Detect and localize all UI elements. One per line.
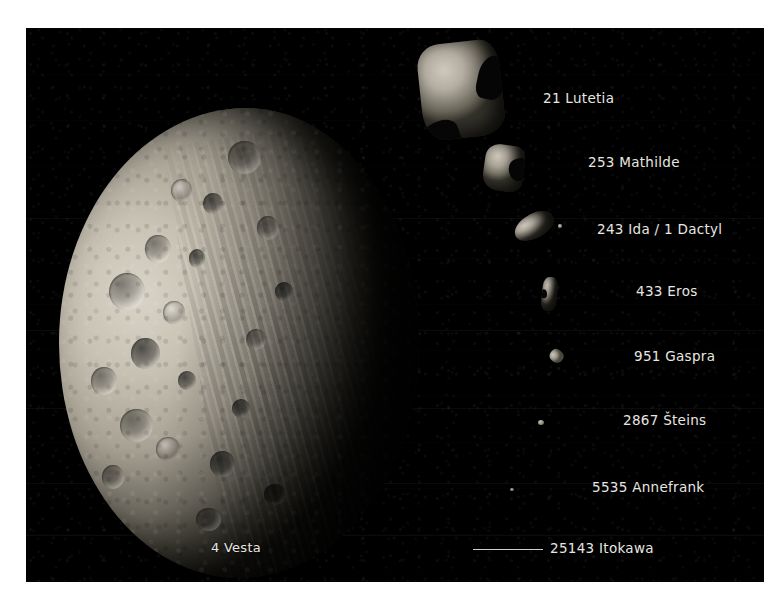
moon-dactyl	[558, 224, 562, 228]
label-mathilde: 253 Mathilde	[588, 154, 680, 170]
asteroid-ida	[513, 214, 555, 238]
asteroid-gaspra	[550, 349, 563, 363]
eros-shadow-waist	[540, 289, 547, 298]
asteroid-steins	[538, 420, 544, 425]
label-itokawa: 25143 Itokawa	[550, 540, 654, 556]
lutetia-shadow-notch	[418, 116, 463, 142]
figure-canvas: 4 Vesta 21 Lutetia 253 Mathilde 243 Ida …	[0, 0, 782, 605]
label-steins: 2867 Šteins	[623, 412, 706, 428]
label-gaspra: 951 Gaspra	[634, 348, 715, 364]
asteroid-lutetia	[420, 42, 502, 138]
asteroid-vesta	[59, 108, 419, 578]
asteroid-montage-plate	[26, 28, 764, 582]
label-lutetia: 21 Lutetia	[543, 90, 614, 106]
lutetia-shadow-notch	[474, 54, 507, 103]
vesta-terminator-shadow	[59, 108, 419, 578]
mathilde-shadow-notch	[506, 157, 527, 183]
label-vesta: 4 Vesta	[211, 540, 261, 555]
label-eros: 433 Eros	[636, 283, 698, 299]
itokawa-leader-line	[473, 549, 543, 550]
label-ida-dactyl: 243 Ida / 1 Dactyl	[597, 221, 722, 237]
asteroid-annefrank	[510, 488, 514, 491]
asteroid-mathilde	[484, 145, 524, 191]
asteroid-eros	[542, 277, 557, 311]
label-annefrank: 5535 Annefrank	[592, 479, 704, 495]
